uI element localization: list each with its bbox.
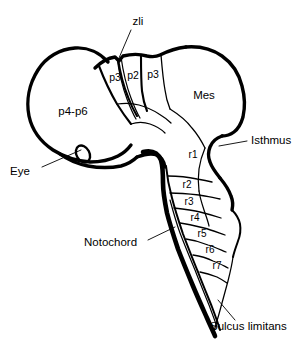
prosomere-ventral-arc	[117, 103, 171, 123]
label-rhombomere-r6: r6	[206, 244, 215, 255]
label-rhombomere-r4: r4	[191, 212, 200, 223]
isthmus-constriction-outline	[209, 136, 223, 178]
label-sulcus-limitans: Sulcus limitans	[210, 320, 287, 332]
label-forebrain-p4-p6: p4-p6	[58, 105, 87, 117]
neural-tube-diagram: p4-p6 p3 p2 p3 Mes r1 r2 r3 r4 r5 r6 r7 …	[0, 0, 298, 342]
neural-tube-figure: p4-p6 p3 p2 p3 Mes r1 r2 r3 r4 r5 r6 r7 …	[0, 0, 298, 342]
label-rhombomere-r3: r3	[185, 196, 194, 207]
label-eye: Eye	[10, 165, 30, 177]
rhombomere-inner-wall	[198, 148, 205, 191]
label-rhombomere-r1: r1	[189, 149, 198, 160]
boundary-p2-p3c	[141, 56, 147, 111]
isthmus-leader-line	[219, 141, 247, 146]
label-rhombomere-r2: r2	[183, 179, 192, 190]
hindbrain-outer-wall	[232, 210, 240, 257]
label-rhombomere-r5: r5	[198, 228, 207, 239]
boundary-r2-r3	[170, 193, 220, 199]
label-prosomere-p2: p2	[127, 69, 139, 81]
label-rhombomere-r7: r7	[213, 260, 222, 271]
boundary-r6-r7	[193, 255, 228, 268]
hindbrain-dorsal-outline	[220, 178, 233, 210]
label-prosomere-p3-caudal: p3	[147, 68, 159, 80]
label-prosomere-p3-rostral: p3	[109, 71, 121, 83]
boundary-p3c-mes	[161, 55, 170, 109]
boundary-r7-caudal	[200, 272, 227, 283]
label-notochord: Notochord	[84, 236, 137, 248]
label-zli: zli	[133, 15, 144, 27]
mesencephalon-ventral-boundary	[170, 109, 205, 148]
ventricular-curve-prosomere	[131, 123, 165, 134]
label-isthmus: Isthmus	[251, 134, 292, 146]
label-mesencephalon: Mes	[193, 89, 215, 101]
